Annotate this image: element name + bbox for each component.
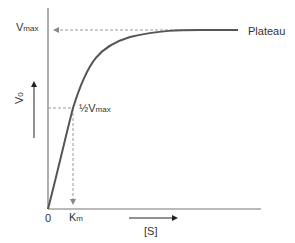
half-vmax-label: ½Vmax (79, 103, 111, 114)
origin-label: 0 (45, 213, 51, 224)
x-axis-label: [S] (144, 226, 157, 237)
plateau-label: Plateau (248, 26, 285, 37)
curve (48, 30, 238, 209)
km-label: Km (69, 212, 83, 223)
vmax-label: Vmax (16, 22, 38, 33)
y-axis-label: V0 (14, 92, 25, 104)
